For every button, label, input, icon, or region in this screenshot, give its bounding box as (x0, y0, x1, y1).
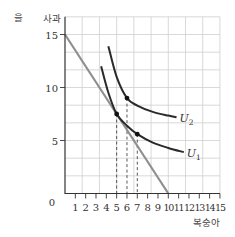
x-tick-label: 13 (194, 202, 205, 213)
y-tick-label: 10 (45, 83, 58, 94)
x-tick-label: 6 (124, 202, 130, 213)
x-tick-label: 14 (205, 202, 216, 213)
y-tick-label: 15 (45, 30, 58, 41)
corner-label: 을 (14, 12, 23, 23)
x-tick-label: 9 (155, 202, 161, 213)
x-tick-label: 11 (174, 202, 184, 213)
indifference-curve-u2 (108, 46, 176, 117)
x-tick-label: 7 (134, 202, 140, 213)
y-tick-label: 5 (52, 136, 58, 147)
x-tick-label: 8 (144, 202, 150, 213)
x-axis-title: 복숭아 (193, 217, 220, 228)
marked-point (114, 112, 119, 117)
marked-point (135, 132, 140, 137)
x-tick-label: 1 (72, 202, 78, 213)
curve-label-u2: U2 (180, 112, 194, 127)
x-tick-label: 10 (163, 202, 174, 213)
y-axis-title: 사과 (43, 13, 61, 24)
x-tick-label: 2 (82, 202, 88, 213)
x-tick-label: 12 (184, 202, 195, 213)
series (65, 35, 184, 194)
indifference-curve-u1 (101, 66, 184, 152)
grid (65, 17, 220, 194)
origin-label: 0 (49, 197, 55, 208)
curve-label-u1: U1 (187, 147, 201, 162)
x-tick-label: 5 (113, 202, 119, 213)
x-tick-label: 15 (215, 202, 226, 213)
x-tick-label: 4 (103, 202, 109, 213)
indifference-curve-chart: U1U2123456789101112131415510150사과복숭아을 (0, 0, 235, 237)
marked-point (125, 96, 130, 101)
x-tick-label: 3 (93, 202, 99, 213)
